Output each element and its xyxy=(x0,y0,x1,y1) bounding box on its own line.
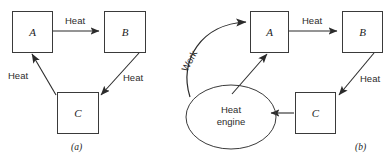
panel-a-box-C[interactable]: C xyxy=(57,92,99,134)
panel-b-box-A[interactable]: A xyxy=(250,11,289,53)
panel-b-heat-label-top: Heat xyxy=(302,16,322,27)
panel-a-caption: (a) xyxy=(71,142,82,152)
panel-a-heat-label-left: Heat xyxy=(8,71,28,82)
heat-engine-label-line1: Heat xyxy=(205,104,257,116)
panel-a-heat-label-right: Heat xyxy=(123,73,143,84)
panel-b-caption: (b) xyxy=(355,142,366,152)
panel-b-box-C[interactable]: C xyxy=(295,92,336,134)
panel-a-box-B-label: B xyxy=(122,27,129,38)
panel-b-box-A-label: A xyxy=(266,27,273,38)
panel-a-box-A[interactable]: A xyxy=(12,11,53,53)
panel-a-box-A-label: A xyxy=(29,27,36,38)
panel-a-box-B[interactable]: B xyxy=(104,11,146,53)
arrow-layer xyxy=(0,0,389,162)
thermodynamic-cycle-figure: A B C Heat Heat Heat (a) A B C Heat engi… xyxy=(0,0,389,162)
heat-engine-label: Heat engine xyxy=(205,104,257,127)
panel-b-box-B[interactable]: B xyxy=(342,11,383,53)
panel-b-box-B-label: B xyxy=(359,27,366,38)
heat-engine-label-line2: engine xyxy=(205,116,257,128)
panel-b-box-C-label: C xyxy=(312,108,319,119)
panel-a-heat-label-top: Heat xyxy=(65,16,85,27)
panel-a-box-C-label: C xyxy=(74,108,81,119)
panel-b-heat-label-right: Heat xyxy=(360,74,380,85)
